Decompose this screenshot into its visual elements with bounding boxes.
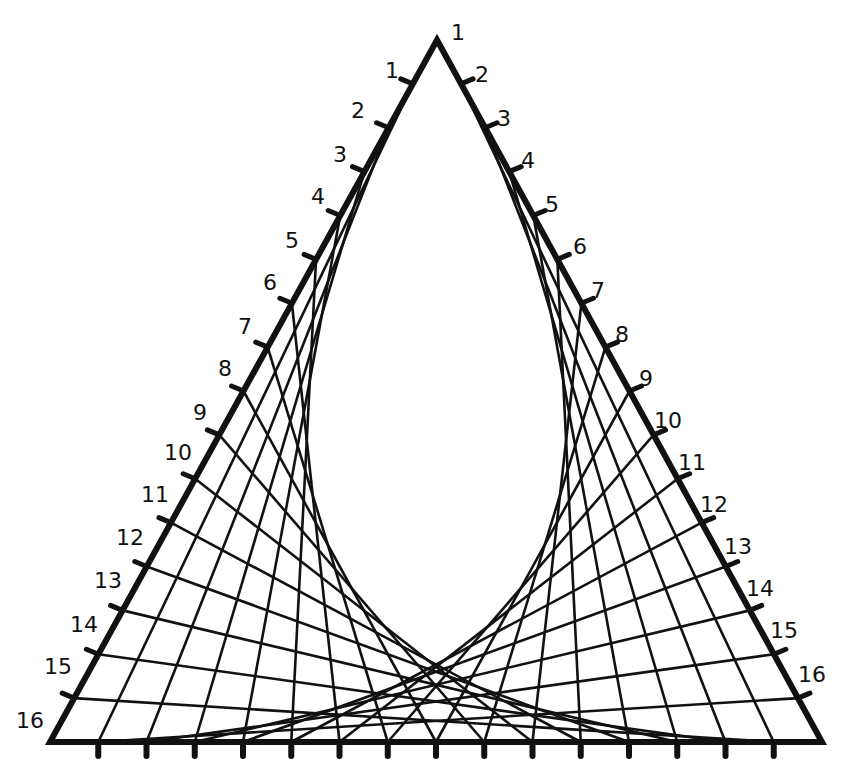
right-point-label: 7 xyxy=(591,278,605,303)
left-point-label: 12 xyxy=(116,525,144,550)
left-point-label: 15 xyxy=(44,654,72,679)
right-point-label: 4 xyxy=(521,148,535,173)
tick-left xyxy=(401,79,413,84)
tick-left xyxy=(280,298,292,303)
string-line-left xyxy=(147,567,629,743)
string-line-left xyxy=(219,435,484,742)
left-point-label: 5 xyxy=(285,228,299,253)
right-point-label: 10 xyxy=(654,408,682,433)
tick-right xyxy=(750,605,762,610)
left-point-label: 7 xyxy=(238,314,252,339)
right-point-label: 3 xyxy=(497,106,511,131)
string-line-right xyxy=(388,435,654,742)
left-point-label: 1 xyxy=(385,58,399,83)
left-point-label: 16 xyxy=(16,708,44,733)
left-point-label: 9 xyxy=(193,400,207,425)
tick-left xyxy=(328,211,340,216)
tick-left xyxy=(62,693,74,698)
right-point-label: 8 xyxy=(615,322,629,347)
tick-left xyxy=(135,562,147,567)
string-line-right xyxy=(147,654,774,742)
tick-right xyxy=(702,518,714,523)
tick-left xyxy=(377,123,389,128)
tick-left xyxy=(111,605,123,610)
string-line-right xyxy=(98,698,798,742)
tick-right xyxy=(485,123,497,128)
right-point-label: 1 xyxy=(451,20,465,45)
right-point-label: 2 xyxy=(475,62,489,87)
tick-right xyxy=(726,562,738,567)
string-line-right xyxy=(243,567,726,743)
tick-left xyxy=(232,386,244,391)
tick-left xyxy=(304,254,316,259)
tick-right xyxy=(798,693,810,698)
string-lines xyxy=(50,40,822,742)
left-point-label: 2 xyxy=(351,98,365,123)
right-point-label: 6 xyxy=(573,234,587,259)
triangle-outline xyxy=(50,40,822,742)
right-point-label: 9 xyxy=(639,366,653,391)
tick-left xyxy=(352,167,364,172)
left-point-label: 8 xyxy=(218,356,232,381)
tick-right xyxy=(774,649,786,654)
right-point-label: 16 xyxy=(798,662,826,687)
left-point-label: 10 xyxy=(164,440,192,465)
left-point-label: 14 xyxy=(70,612,98,637)
string-art-diagram: 1234567891011121314151612345678910111213… xyxy=(0,0,862,776)
left-point-label: 13 xyxy=(94,568,122,593)
tick-right xyxy=(509,167,521,172)
string-line-left xyxy=(74,698,774,742)
tick-left xyxy=(207,430,219,435)
left-point-label: 11 xyxy=(141,482,169,507)
tick-left xyxy=(86,649,98,654)
triangle-frame xyxy=(50,40,822,742)
right-point-label: 15 xyxy=(770,618,798,643)
right-point-label: 12 xyxy=(700,492,728,517)
right-point-label: 11 xyxy=(678,450,706,475)
tick-right xyxy=(461,79,473,84)
tick-marks xyxy=(62,79,810,756)
right-point-label: 13 xyxy=(724,534,752,559)
tick-left xyxy=(159,518,171,523)
right-point-label: 14 xyxy=(746,576,774,601)
left-point-label: 4 xyxy=(311,184,325,209)
tick-right xyxy=(533,211,545,216)
point-labels: 1234567891011121314151612345678910111213… xyxy=(16,20,826,733)
tick-left xyxy=(256,342,268,347)
right-point-label: 5 xyxy=(545,192,559,217)
left-point-label: 6 xyxy=(263,270,277,295)
left-point-label: 3 xyxy=(333,142,347,167)
tick-right xyxy=(557,254,569,259)
tick-left xyxy=(183,474,195,479)
string-line-left xyxy=(98,654,725,742)
